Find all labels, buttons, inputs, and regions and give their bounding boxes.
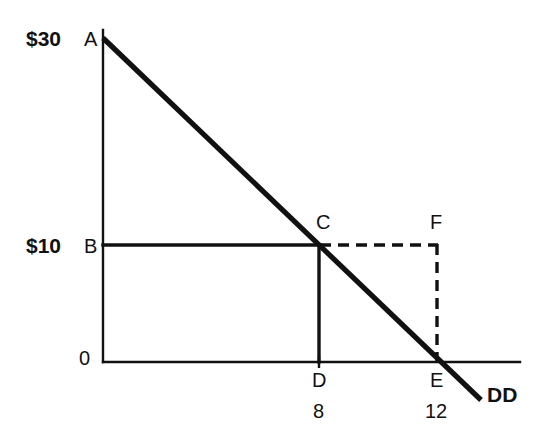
point-label-f: F xyxy=(430,212,442,232)
demand-curve-figure: $30 A $10 B 0 C F D 8 E 12 DD xyxy=(0,0,549,442)
quantity-label-d: 8 xyxy=(313,401,324,421)
demand-curve-plot xyxy=(0,0,549,442)
point-label-b: B xyxy=(84,236,97,256)
point-label-a: A xyxy=(84,29,97,49)
price-label-high: $30 xyxy=(26,28,61,49)
origin-label: 0 xyxy=(79,348,90,368)
point-label-e: E xyxy=(430,370,443,390)
point-label-d: D xyxy=(312,370,326,390)
price-label-low: $10 xyxy=(26,235,61,256)
demand-curve-dd xyxy=(103,38,481,400)
quantity-label-e: 12 xyxy=(425,401,447,421)
demand-curve-label: DD xyxy=(487,384,517,405)
point-label-c: C xyxy=(316,212,330,232)
